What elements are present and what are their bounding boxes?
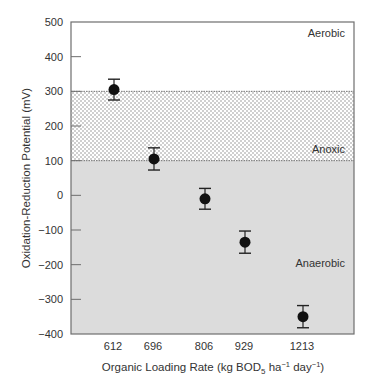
y-axis-title: Oxidation-Reduction Potential (mV) [20, 88, 32, 268]
zone-label-anoxic: Anoxic [312, 143, 346, 155]
zone-label-anaerobic: Anaerobic [295, 257, 345, 269]
zone-label-aerobic: Aerobic [308, 27, 346, 39]
orp-chart: 5004003002001000−100−200−300−400 6126968… [0, 0, 369, 388]
y-tick-label: −400 [38, 328, 63, 340]
y-tick-label: 300 [45, 85, 63, 97]
y-tick-label: −300 [38, 293, 63, 305]
x-tick-label: 612 [104, 340, 122, 352]
y-tick-label: −100 [38, 224, 63, 236]
y-tick-label: 100 [45, 155, 63, 167]
x-tick-label: 696 [144, 340, 162, 352]
x-axis: 6126968069291213 [104, 340, 314, 352]
y-tick-label: 500 [45, 16, 63, 28]
zones [71, 22, 354, 334]
y-tick-label: 0 [57, 189, 63, 201]
y-tick-label: 400 [45, 51, 63, 63]
x-tick-label: 806 [195, 340, 213, 352]
x-tick-label: 1213 [290, 340, 314, 352]
y-tick-label: 200 [45, 120, 63, 132]
y-tick-label: −200 [38, 259, 63, 271]
zone-anaerobic [71, 161, 354, 334]
x-tick-label: 929 [235, 340, 253, 352]
x-axis-title: Organic Loading Rate (kg BOD5 ha−1 day−1… [102, 360, 325, 376]
